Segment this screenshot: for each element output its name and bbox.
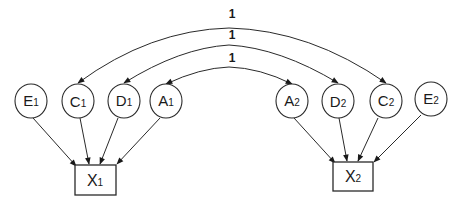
- latent-nodes: E1 C1 D1 A1 A2 D2: [15, 82, 447, 118]
- node-d2: D2: [322, 84, 354, 118]
- diagram-svg: 1 1 1 E1 C1: [0, 0, 456, 205]
- correlation-labels: 1 1 1: [229, 7, 236, 65]
- path-e2-x2: [374, 115, 421, 162]
- node-d1: D1: [108, 84, 140, 118]
- node-x1: X1: [75, 165, 116, 195]
- path-c1-x1: [80, 118, 89, 164]
- node-c2: C2: [370, 84, 402, 118]
- observed-nodes: X1 X2: [75, 162, 373, 195]
- correlation-label-a: 1: [229, 51, 236, 65]
- path-a1-x1: [117, 118, 160, 164]
- node-c1: C1: [62, 84, 94, 118]
- path-c2-x2: [358, 118, 378, 161]
- path-d1-x1: [100, 118, 118, 164]
- node-a2: A2: [276, 84, 308, 118]
- correlation-label-c: 1: [229, 7, 236, 21]
- node-a1: A1: [150, 84, 182, 118]
- path-a2-x2: [294, 118, 335, 163]
- correlation-label-d: 1: [229, 28, 236, 42]
- node-x2: X2: [333, 162, 373, 191]
- paths-to-x1: [33, 118, 160, 166]
- node-e1: E1: [15, 84, 47, 118]
- path-d2-x2: [339, 118, 347, 161]
- path-e1-x1: [33, 118, 76, 166]
- paths-to-x2: [294, 115, 421, 163]
- path-diagram: 1 1 1 E1 C1: [0, 0, 456, 205]
- correlation-arc-a: [166, 67, 292, 84]
- node-e2: E2: [415, 82, 447, 116]
